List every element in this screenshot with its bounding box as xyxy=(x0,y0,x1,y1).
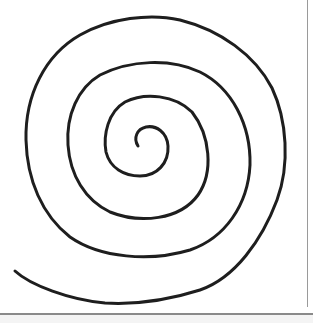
drawing-canvas xyxy=(0,0,313,323)
frame-margin-bottom xyxy=(0,315,313,323)
spiral-stroke xyxy=(15,17,285,303)
frame-border-right xyxy=(307,0,308,307)
spiral-drawing xyxy=(0,0,313,323)
